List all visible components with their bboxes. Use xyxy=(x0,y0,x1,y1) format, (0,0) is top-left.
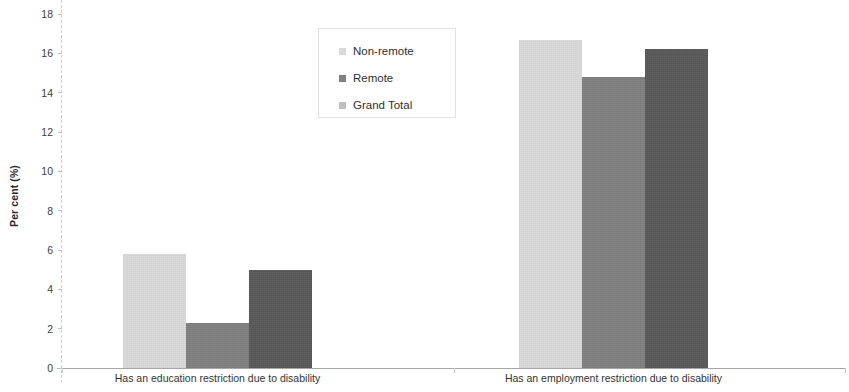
bar-grand-total-group-2 xyxy=(645,49,708,368)
x-axis-line xyxy=(57,368,845,369)
y-axis-tick-mark xyxy=(58,53,62,54)
x-axis-category-tick xyxy=(845,368,846,373)
bar-non-remote-group-1 xyxy=(123,254,186,368)
x-axis-category-label-1: Has an education restriction due to disa… xyxy=(38,372,398,384)
y-axis-tick-mark xyxy=(58,132,62,133)
y-axis-tick-label: 8 xyxy=(47,205,53,217)
y-axis-title-label: Per cent (%) xyxy=(8,165,20,227)
y-axis-tick-mark xyxy=(58,210,62,211)
y-axis-title: Per cent (%) xyxy=(2,0,26,392)
legend-swatch-remote-icon xyxy=(339,75,346,82)
legend-swatch-grand-total-icon xyxy=(339,102,346,109)
y-axis-tick-label: 16 xyxy=(41,47,53,59)
bar-grand-total-group-1 xyxy=(249,270,312,368)
bar-remote-group-2 xyxy=(582,77,645,368)
legend-item-remote[interactable]: Remote xyxy=(339,66,455,90)
legend-swatch-non-remote-icon xyxy=(339,48,346,55)
x-axis-category-label-2: Has an employment restriction due to dis… xyxy=(434,372,794,384)
legend-label: Grand Total xyxy=(353,99,412,111)
legend-label: Non-remote xyxy=(353,45,414,57)
legend: Non-remoteRemoteGrand Total xyxy=(318,28,456,118)
y-axis-tick-mark xyxy=(58,250,62,251)
y-axis-tick-mark xyxy=(58,92,62,93)
y-axis-tick-mark xyxy=(58,171,62,172)
y-axis-line xyxy=(61,0,62,382)
bar-remote-group-1 xyxy=(186,323,249,368)
legend-label: Remote xyxy=(353,72,393,84)
y-axis-tick-mark xyxy=(58,14,62,15)
y-axis-tick-label: 6 xyxy=(47,244,53,256)
bar-non-remote-group-2 xyxy=(519,40,582,368)
legend-item-grand-total[interactable]: Grand Total xyxy=(339,93,455,117)
y-axis-tick-label: 12 xyxy=(41,126,53,138)
y-axis-tick-label: 18 xyxy=(41,8,53,20)
y-axis-tick-label: 2 xyxy=(47,323,53,335)
y-axis-tick-label: 10 xyxy=(41,165,53,177)
y-axis-tick-label: 4 xyxy=(47,283,53,295)
y-axis-tick-mark xyxy=(58,289,62,290)
legend-item-non-remote[interactable]: Non-remote xyxy=(339,39,455,63)
y-axis-tick-label: 14 xyxy=(41,87,53,99)
bar-chart: Per cent (%) 024681012141618 Has an educ… xyxy=(0,0,849,392)
y-axis-tick-mark xyxy=(58,328,62,329)
